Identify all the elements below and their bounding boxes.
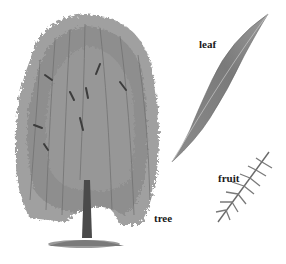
leaf-label: leaf <box>199 38 216 50</box>
willow-illustration: tree leaf fruit <box>0 0 286 264</box>
tree-label: tree <box>154 212 172 224</box>
fruit-drawing <box>216 152 272 222</box>
illustration-art <box>0 0 286 264</box>
tree-drawing <box>16 14 159 248</box>
leaf-drawing <box>172 14 268 162</box>
fruit-label: fruit <box>218 172 239 184</box>
